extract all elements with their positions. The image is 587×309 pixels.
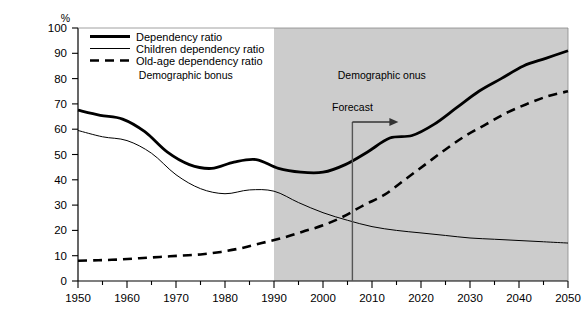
svg-text:90: 90	[54, 47, 67, 59]
svg-text:2000: 2000	[310, 292, 336, 304]
svg-text:20: 20	[54, 224, 67, 236]
y-axis-ticks	[72, 28, 78, 281]
svg-text:2040: 2040	[506, 292, 532, 304]
svg-text:2020: 2020	[408, 292, 434, 304]
svg-text:40: 40	[54, 174, 67, 186]
y-axis-unit-label: %	[61, 12, 70, 24]
svg-text:50: 50	[54, 149, 67, 161]
svg-text:30: 30	[54, 199, 67, 211]
legend-label-dependency-ratio: Dependency ratio	[136, 31, 222, 43]
annotation-forecast-label: Forecast	[332, 101, 373, 113]
svg-text:1950: 1950	[65, 292, 91, 304]
svg-text:1970: 1970	[163, 292, 189, 304]
legend-label-children-dependency-ratio: Children dependency ratio	[136, 43, 264, 55]
svg-text:80: 80	[54, 73, 67, 85]
svg-text:1980: 1980	[212, 292, 238, 304]
svg-text:2030: 2030	[457, 292, 483, 304]
svg-text:60: 60	[54, 123, 67, 135]
svg-text:70: 70	[54, 98, 67, 110]
svg-text:10: 10	[54, 250, 67, 262]
svg-text:1990: 1990	[261, 292, 287, 304]
annotation-demographic-onus: Demographic onus	[338, 69, 426, 81]
legend-label-old-age-dependency-ratio: Old-age dependency ratio	[136, 55, 263, 67]
chart-legend: Dependency ratio Children dependency rat…	[90, 31, 264, 67]
svg-text:0: 0	[61, 275, 67, 287]
x-axis-ticks	[78, 281, 568, 288]
x-axis-tick-labels: 1950196019701980199020002010202020302040…	[65, 292, 581, 304]
svg-text:2050: 2050	[555, 292, 581, 304]
svg-text:1960: 1960	[114, 292, 140, 304]
annotation-demographic-bonus: Demographic bonus	[139, 69, 233, 81]
svg-text:2010: 2010	[359, 292, 385, 304]
chart-container: 0102030405060708090100 19501960197019801…	[0, 0, 587, 309]
y-axis-tick-labels: 0102030405060708090100	[48, 22, 67, 287]
dependency-ratio-chart: 0102030405060708090100 19501960197019801…	[0, 0, 587, 309]
